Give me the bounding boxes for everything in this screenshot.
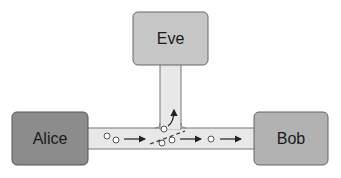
photon-icon bbox=[169, 137, 175, 143]
node-alice: Alice bbox=[12, 112, 88, 165]
node-bob: Bob bbox=[254, 112, 328, 165]
vertical-channel bbox=[160, 63, 181, 129]
photon-icon bbox=[113, 137, 119, 143]
quantum-eavesdrop-diagram: Alice Eve Bob bbox=[0, 0, 341, 178]
node-alice-label: Alice bbox=[33, 130, 68, 147]
photon-icon bbox=[208, 136, 214, 142]
photon-icon bbox=[161, 126, 167, 132]
photon-icon bbox=[104, 133, 110, 139]
node-eve: Eve bbox=[133, 12, 208, 65]
node-bob-label: Bob bbox=[277, 130, 306, 147]
node-eve-label: Eve bbox=[157, 30, 185, 47]
